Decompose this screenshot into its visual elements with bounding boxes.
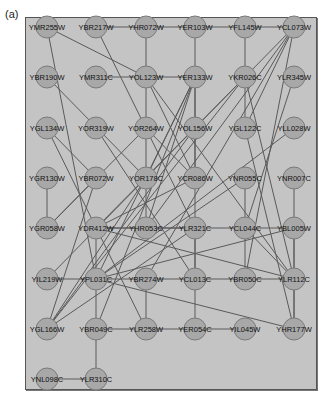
node-label: YGL122C bbox=[229, 124, 263, 133]
node-label: YBL005W bbox=[277, 224, 312, 233]
node-label: YIL045W bbox=[230, 325, 262, 334]
node-label: YLR321C bbox=[179, 224, 212, 233]
node-label: YIL219W bbox=[32, 275, 64, 284]
node-label: YNR007C bbox=[277, 174, 311, 183]
node-YLL028W[interactable]: YLL028W bbox=[278, 117, 312, 139]
node-YGL122C[interactable]: YGL122C bbox=[229, 117, 263, 139]
node-YBR049C[interactable]: YBR049C bbox=[79, 318, 113, 340]
node-YCL013C[interactable]: YCL013C bbox=[179, 268, 212, 290]
node-label: YKR026C bbox=[228, 73, 262, 82]
node-YLR310C[interactable]: YLR310C bbox=[80, 368, 113, 390]
node-label: YBR072W bbox=[78, 174, 114, 183]
node-YER054C[interactable]: YER054C bbox=[178, 318, 212, 340]
node-YFL145W[interactable]: YFL145W bbox=[228, 16, 262, 38]
node-YLR258W[interactable]: YLR258W bbox=[129, 318, 164, 340]
node-label: YPL031C bbox=[80, 275, 113, 284]
edge-YLR345W-YCL044C bbox=[245, 77, 294, 228]
node-label: YLR345W bbox=[277, 73, 312, 82]
node-label: YDR412W bbox=[78, 224, 114, 233]
edge-YCL073W-YHR053C bbox=[146, 27, 294, 228]
node-YGL134W[interactable]: YGL134W bbox=[30, 117, 66, 139]
node-label: YBR217W bbox=[78, 23, 114, 32]
node-YGR058W[interactable]: YGR058W bbox=[29, 217, 66, 239]
node-label: YER054C bbox=[178, 325, 212, 334]
node-YDR412W[interactable]: YDR412W bbox=[78, 217, 114, 239]
edge-YBR072W-YGL166W bbox=[47, 178, 96, 329]
node-label: YHR177W bbox=[276, 325, 312, 334]
node-label: YCL044C bbox=[229, 224, 262, 233]
node-YHR072W[interactable]: YHR072W bbox=[128, 16, 164, 38]
node-label: YOL123W bbox=[129, 73, 165, 82]
node-YMR311C[interactable]: YMR311C bbox=[79, 66, 114, 88]
node-YLR345W[interactable]: YLR345W bbox=[277, 66, 312, 88]
network-graph: YMR255WYBR217WYHR072WYER103WYFL145WYCL07… bbox=[0, 0, 331, 404]
node-YMR255W[interactable]: YMR255W bbox=[29, 16, 66, 38]
node-YKR026C[interactable]: YKR026C bbox=[228, 66, 262, 88]
node-YBR072W[interactable]: YBR072W bbox=[78, 167, 114, 189]
node-label: YGR058W bbox=[29, 224, 66, 233]
node-label: YCL073W bbox=[277, 23, 312, 32]
node-YHR053C[interactable]: YHR053C bbox=[129, 217, 163, 239]
node-label: YCR086W bbox=[177, 174, 213, 183]
node-label: YER103W bbox=[177, 23, 213, 32]
node-label: YFL145W bbox=[228, 23, 262, 32]
node-label: YLR258W bbox=[129, 325, 164, 334]
node-label: YOL156W bbox=[178, 124, 214, 133]
node-YNR007C[interactable]: YNR007C bbox=[277, 167, 311, 189]
node-label: YMR255W bbox=[29, 23, 66, 32]
node-YER133W[interactable]: YER133W bbox=[177, 66, 213, 88]
node-YER103W[interactable]: YER103W bbox=[177, 16, 213, 38]
node-label: YNR055C bbox=[228, 174, 262, 183]
node-YGR130W[interactable]: YGR130W bbox=[29, 167, 66, 189]
node-label: YER133W bbox=[177, 73, 213, 82]
node-label: YOR178C bbox=[129, 174, 164, 183]
node-YIL219W[interactable]: YIL219W bbox=[32, 268, 64, 290]
node-YBR050C[interactable]: YBR050C bbox=[228, 268, 262, 290]
node-label: YGR130W bbox=[29, 174, 66, 183]
node-label: YLR310C bbox=[80, 375, 113, 384]
node-label: YBR050C bbox=[228, 275, 262, 284]
edge-YCL073W-YBR274W bbox=[146, 27, 294, 279]
node-YOR264W[interactable]: YOR264W bbox=[128, 117, 165, 139]
node-YBR217W[interactable]: YBR217W bbox=[78, 16, 114, 38]
node-YBR274W[interactable]: YBR274W bbox=[128, 268, 164, 290]
edge-YOL123W-YLR112C bbox=[146, 77, 294, 279]
node-label: YLL028W bbox=[278, 124, 312, 133]
node-YOL123W[interactable]: YOL123W bbox=[129, 66, 165, 88]
node-label: YOR319W bbox=[78, 124, 115, 133]
node-YCL073W[interactable]: YCL073W bbox=[277, 16, 312, 38]
node-label: YGL166W bbox=[30, 325, 66, 334]
node-label: YGL134W bbox=[30, 124, 66, 133]
node-YNL098C[interactable]: YNL098C bbox=[31, 368, 64, 390]
node-YCR086W[interactable]: YCR086W bbox=[177, 167, 213, 189]
node-label: YOR264W bbox=[128, 124, 165, 133]
node-YIL045W[interactable]: YIL045W bbox=[230, 318, 262, 340]
node-label: YBR190W bbox=[29, 73, 65, 82]
node-label: YNL098C bbox=[31, 375, 64, 384]
node-YBL005W[interactable]: YBL005W bbox=[277, 217, 312, 239]
node-YHR177W[interactable]: YHR177W bbox=[276, 318, 312, 340]
node-YOR319W[interactable]: YOR319W bbox=[78, 117, 115, 139]
node-label: YLR112C bbox=[278, 275, 311, 284]
node-label: YBR049C bbox=[79, 325, 113, 334]
node-YGL166W[interactable]: YGL166W bbox=[30, 318, 66, 340]
node-label: YMR311C bbox=[79, 73, 114, 82]
node-label: YHR072W bbox=[128, 23, 164, 32]
node-YOL156W[interactable]: YOL156W bbox=[178, 117, 214, 139]
node-label: YHR053C bbox=[129, 224, 163, 233]
node-YLR112C[interactable]: YLR112C bbox=[278, 268, 311, 290]
node-YBR190W[interactable]: YBR190W bbox=[29, 66, 65, 88]
node-label: YBR274W bbox=[128, 275, 164, 284]
node-label: YCL013C bbox=[179, 275, 212, 284]
